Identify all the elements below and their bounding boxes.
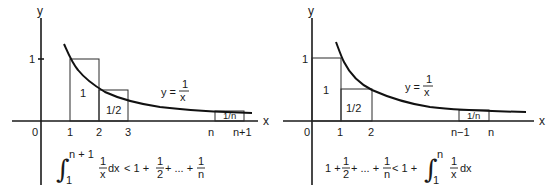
right-curve-label-num: 1 xyxy=(426,73,432,85)
right-curve-label-lhs: y = xyxy=(405,81,420,93)
right-y-tick-label: 1 xyxy=(302,53,308,65)
right-y-axis-label: y xyxy=(308,4,314,18)
right-rect-label-half: 1/2 xyxy=(346,102,361,114)
left-dots: + ... + xyxy=(165,162,193,174)
left-y-tick-label: 1 xyxy=(29,53,35,65)
right-x-tick-2: 2 xyxy=(368,126,374,138)
right-lead: 1 + xyxy=(325,162,341,174)
left-integrand-num: 1 xyxy=(100,155,106,167)
right-integrand-num: 1 xyxy=(451,155,457,167)
left-x-tick-n: n xyxy=(208,126,214,138)
left-term2-num: 1 xyxy=(157,155,163,167)
left-x-axis-label: x xyxy=(263,114,269,128)
left-lt-one-plus: < 1 + xyxy=(124,162,149,174)
right-x-tick-1: 1 xyxy=(337,126,343,138)
left-x-tick-n-plus-1: n+1 xyxy=(233,126,252,138)
left-curve-label-den: x xyxy=(180,91,186,103)
left-y-axis-label: y xyxy=(37,4,43,18)
harmonic-integral-diagram: y x 1 0 1 2 3 n n+1 1 1/2 1/n y = 1 x ∫ … xyxy=(0,0,554,195)
left-termn-num: 1 xyxy=(198,155,204,167)
left-curve-1-over-x xyxy=(64,44,252,113)
left-inequality: ∫ n + 1 1 1 x dx < 1 + 1 2 + ... + 1 n xyxy=(56,148,205,186)
right-lt-one-plus: < 1 + xyxy=(392,162,417,174)
left-int-lower: 1 xyxy=(66,174,72,186)
left-x-tick-2: 2 xyxy=(96,126,102,138)
right-rect-label-1-over-n: 1/n xyxy=(467,110,480,121)
right-int-lower: 1 xyxy=(433,174,439,186)
right-dx: dx xyxy=(460,162,472,174)
left-termn-den: n xyxy=(198,168,204,180)
right-int-upper: n xyxy=(437,148,443,160)
right-curve-label-den: x xyxy=(424,86,430,98)
right-x-tick-n: n xyxy=(488,126,494,138)
left-rect-label-half: 1/2 xyxy=(106,104,121,116)
right-term2-num: 1 xyxy=(343,155,349,167)
right-termn-den: n xyxy=(384,168,390,180)
right-x-axis-label: x xyxy=(539,114,545,128)
left-dx: dx xyxy=(108,162,120,174)
left-rect-label-1: 1 xyxy=(80,87,86,99)
right-integrand-den: x xyxy=(451,168,457,180)
right-dots: + ... + xyxy=(351,162,379,174)
right-x-tick-0: 0 xyxy=(304,126,310,138)
right-x-tick-n-minus-1: n−1 xyxy=(451,126,470,138)
left-x-tick-3: 3 xyxy=(125,126,131,138)
right-term2-den: 2 xyxy=(343,168,349,180)
right-panel: y x 1 0 1 2 n−1 n 1 1/2 1/n y = 1 x 1 + … xyxy=(283,4,545,186)
left-x-tick-0: 0 xyxy=(32,126,38,138)
right-rect-label-1: 1 xyxy=(323,84,329,96)
left-int-upper: n + 1 xyxy=(69,148,94,160)
left-curve-label-num: 1 xyxy=(182,78,188,90)
right-termn-num: 1 xyxy=(384,155,390,167)
right-inequality: 1 + 1 2 + ... + 1 n < 1 + ∫ n 1 1 x dx xyxy=(325,148,472,186)
left-panel: y x 1 0 1 2 3 n n+1 1 1/2 1/n y = 1 x ∫ … xyxy=(12,4,269,186)
left-term2-den: 2 xyxy=(157,168,163,180)
left-curve-label-lhs: y = xyxy=(161,86,176,98)
left-integrand-den: x xyxy=(100,168,106,180)
left-x-tick-1: 1 xyxy=(67,126,73,138)
